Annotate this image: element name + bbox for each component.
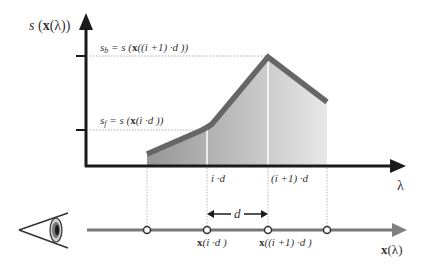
sf-label: sf = s (x(i ·d )) xyxy=(100,114,164,128)
eye-icon xyxy=(19,213,68,248)
sample-point xyxy=(324,227,331,234)
sample-point xyxy=(204,227,211,234)
lambda-axis-label: λ xyxy=(397,178,404,193)
y-axis-label: s (x(λ)) xyxy=(29,18,71,34)
sb-label: sb = s (x((i +1) ·d )) xyxy=(100,41,189,55)
label-x-i1d: x((i +1) ·d ) xyxy=(259,236,312,249)
area-under-curve xyxy=(147,57,327,166)
sampling-diagram: s (x(λ)) sb = s (x((i +1) ·d )) sf = s (… xyxy=(0,0,422,274)
y-axis-arrow-icon xyxy=(79,13,93,30)
label-x-lambda: x(λ) xyxy=(381,242,402,257)
right-arrow-icon xyxy=(261,210,268,218)
viewing-ray-arrow-icon xyxy=(392,223,407,237)
distance-d-indicator: d xyxy=(207,206,268,221)
left-arrow-icon xyxy=(207,210,214,218)
sample-point xyxy=(144,227,151,234)
tick-label-id: i ·d xyxy=(211,172,226,184)
sample-point xyxy=(265,227,272,234)
lambda-axis-arrow-icon xyxy=(390,159,406,173)
tick-label-i1d: (i +1) ·d xyxy=(271,172,309,185)
d-label: d xyxy=(234,206,241,221)
label-x-id: x(i ·d ) xyxy=(197,236,227,249)
